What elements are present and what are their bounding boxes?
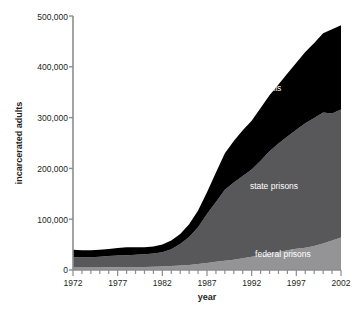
chart-container: incarcerated adults 0 100,000 200,000 30…: [0, 0, 357, 313]
x-tick-label: 1997: [287, 278, 306, 288]
stacked-area-chart: incarcerated adults 0 100,000 200,000 30…: [0, 0, 357, 313]
y-axis-title: incarcerated adults: [14, 102, 24, 185]
y-tick-label: 300,000: [37, 113, 68, 123]
x-tick-label: 2002: [332, 278, 351, 288]
area-series-group: [73, 25, 341, 270]
series-label-federal-prisons: federal prisons: [255, 249, 311, 259]
y-axis-tick-labels: 0 100,000 200,000 300,000 400,000 500,00…: [37, 12, 68, 275]
x-tick-label: 1977: [108, 278, 127, 288]
x-tick-label: 1972: [64, 278, 83, 288]
y-tick-label: 100,000: [37, 215, 68, 225]
y-tick-label: 200,000: [37, 164, 68, 174]
x-axis-tick-labels: 1972197719821987199219972002: [64, 278, 351, 288]
y-tick-label: 0: [63, 265, 68, 275]
x-tick-label: 1982: [153, 278, 172, 288]
series-label-jails: jails: [266, 83, 282, 93]
y-tick-label: 500,000: [37, 12, 68, 22]
x-axis-ticks: [73, 270, 341, 276]
x-tick-label: 1987: [198, 278, 217, 288]
area-series-state-prisons: [73, 109, 341, 267]
series-label-state-prisons: state prisons: [250, 181, 298, 191]
x-tick-label: 1992: [242, 278, 261, 288]
x-axis-title: year: [198, 292, 217, 302]
y-tick-label: 400,000: [37, 62, 68, 72]
